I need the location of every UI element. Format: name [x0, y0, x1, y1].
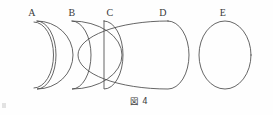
phase-a-outline: [37, 21, 73, 89]
phase-label-b: B: [69, 7, 76, 18]
phase-label-a: A: [28, 7, 36, 18]
phase-label-d: D: [159, 7, 166, 18]
phase-shape-d: [78, 21, 189, 89]
phase-shape-e: [199, 21, 251, 89]
phase-e-outline: [199, 21, 251, 89]
figure-container: A B C D E 図 4: [0, 0, 273, 115]
phase-d-outline: [78, 21, 189, 89]
phase-c-outline: [104, 21, 123, 89]
scan-artifact-speck: [2, 103, 6, 108]
phase-shape-a: [34, 21, 73, 89]
phase-shape-c: [104, 21, 123, 89]
figure-caption: 図 4: [130, 96, 147, 106]
phase-shape-b: [72, 21, 122, 89]
phase-label-c: C: [107, 7, 114, 18]
phase-b-outline: [72, 21, 122, 89]
phase-label-e: E: [220, 7, 226, 18]
moon-phase-diagram: A B C D E 図 4: [0, 0, 273, 115]
